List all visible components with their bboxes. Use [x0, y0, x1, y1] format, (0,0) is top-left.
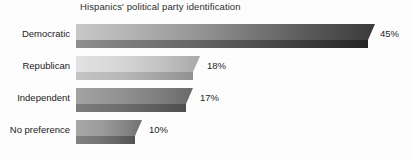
- value-label-no-preference: 10%: [149, 124, 168, 135]
- category-label-republican: Republican: [0, 60, 70, 71]
- bar-row: Independent 17%: [0, 88, 413, 116]
- bar-independent[interactable]: [76, 88, 193, 112]
- category-label-no-preference: No preference: [0, 124, 70, 135]
- bar-side-face: [76, 104, 186, 112]
- bar-democratic[interactable]: [76, 24, 375, 48]
- chart-title: Hispanics' political party identificatio…: [80, 1, 241, 12]
- value-label-democratic: 45%: [380, 28, 399, 39]
- category-label-independent: Independent: [0, 92, 70, 103]
- bar-side-face: [76, 136, 135, 144]
- bar-no-preference[interactable]: [76, 120, 142, 144]
- bar-top-face: [76, 120, 142, 136]
- chart-container: Hispanics' political party identificatio…: [0, 0, 413, 159]
- bar-top-face: [76, 88, 193, 104]
- category-label-democratic: Democratic: [0, 28, 70, 39]
- bar-republican[interactable]: [76, 56, 200, 80]
- bar-row: Republican 18%: [0, 56, 413, 84]
- bar-top-face: [76, 56, 200, 72]
- bar-top-face: [76, 24, 375, 40]
- value-label-independent: 17%: [200, 92, 219, 103]
- bar-side-face: [76, 40, 368, 48]
- bar-row: Democratic 45%: [0, 24, 413, 52]
- value-label-republican: 18%: [207, 60, 226, 71]
- bar-row: No preference 10%: [0, 120, 413, 148]
- bar-side-face: [76, 72, 193, 80]
